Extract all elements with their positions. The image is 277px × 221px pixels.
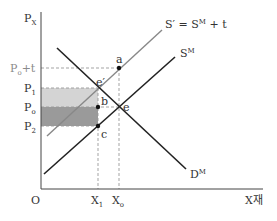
- y-axis-label: PX: [24, 12, 36, 27]
- label-p1: P1: [24, 82, 36, 97]
- guide-lines: [41, 68, 119, 189]
- cropped-caption: [58, 217, 208, 221]
- point-label-e-prime: e′: [96, 76, 106, 89]
- x-axis-label: X재: [245, 194, 263, 207]
- point-b: [96, 105, 100, 109]
- label-sm: SM: [180, 47, 195, 60]
- label-p0-plus-t: Po+t: [10, 62, 36, 77]
- point-label-c: c: [101, 128, 107, 141]
- label-s-prime: S′ = SM + t: [165, 18, 227, 31]
- label-p0: Po: [24, 101, 36, 116]
- origin-label: O: [31, 194, 40, 207]
- point-label-b: b: [101, 95, 108, 108]
- point-c: [96, 124, 100, 128]
- shaded-region-dark: [41, 107, 98, 126]
- label-x1: X1: [91, 194, 103, 209]
- label-x0: Xo: [112, 194, 124, 209]
- point-label-e: e: [123, 101, 130, 114]
- point-a: [117, 66, 121, 70]
- label-p2: P2: [24, 120, 36, 135]
- point-label-a: a: [116, 53, 123, 66]
- label-dm: DM: [190, 168, 206, 181]
- tariff-diagram: PX Po+t P1 Po P2 O X1 Xo X재 S′ = SM + t …: [0, 0, 277, 221]
